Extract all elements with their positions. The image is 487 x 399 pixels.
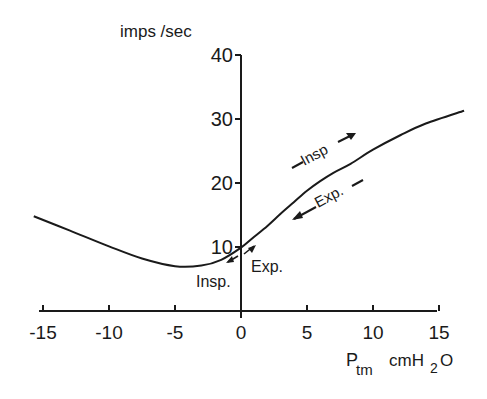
annotation-text: Insp <box>297 140 330 168</box>
x-axis-label: P tm cmH 2 O <box>346 350 453 378</box>
y-ticks: 10203040 <box>211 44 241 258</box>
y-tick-label: 20 <box>211 172 233 194</box>
annotation-text: Insp. <box>196 273 231 290</box>
arrow-left-icon <box>292 211 303 220</box>
x-tick-label: 15 <box>428 322 449 343</box>
x-label-sub: tm <box>356 361 373 378</box>
annotation-insp-upper: Insp <box>292 133 356 169</box>
x-tick-label: 10 <box>362 322 383 343</box>
y-tick-label: 30 <box>211 108 233 130</box>
y-axis-label: imps /sec <box>120 22 192 41</box>
x-tick-label: 5 <box>302 322 313 343</box>
annotation-text: Exp. <box>311 182 345 211</box>
x-tick-label: -5 <box>167 322 184 343</box>
x-label-unit-end: O <box>440 351 453 370</box>
arrow-up-right-icon <box>248 245 256 253</box>
annotation-exp-upper: Exp. <box>292 180 363 220</box>
annotation-exp-lower: Exp. <box>244 245 283 275</box>
x-tick-label: 0 <box>236 322 247 343</box>
x-label-unit-sub: 2 <box>430 360 438 376</box>
annotation-text: Exp. <box>251 258 283 275</box>
x-tick-label: -15 <box>29 322 56 343</box>
x-tick-label: -10 <box>95 322 122 343</box>
y-tick-label: 40 <box>211 44 233 66</box>
data-curve <box>34 111 464 267</box>
x-label-unit: cmH <box>389 351 424 370</box>
chart: 10203040 -15-10-5051015 imps /sec P tm c… <box>0 0 487 399</box>
